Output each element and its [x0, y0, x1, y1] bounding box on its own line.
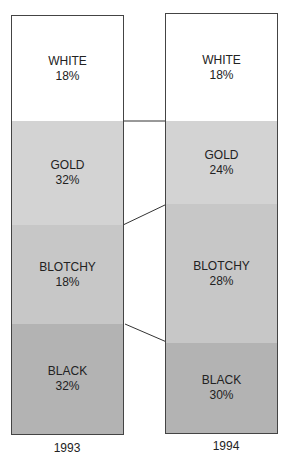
segment-label: WHITE	[48, 54, 87, 69]
segment-value: 18%	[55, 275, 79, 290]
segment-value: 18%	[209, 68, 233, 83]
segment-black-1993: BLACK 32%	[11, 324, 124, 435]
segment-blotchy-1993: BLOTCHY 18%	[11, 225, 124, 325]
segment-value: 30%	[209, 388, 233, 403]
segment-value: 32%	[55, 173, 79, 188]
x-label-1993: 1993	[37, 441, 97, 455]
x-label-1994: 1994	[196, 439, 256, 453]
segment-blotchy-1994: BLOTCHY 28%	[165, 204, 278, 344]
segment-value: 24%	[209, 163, 233, 178]
segment-label: BLACK	[202, 373, 241, 388]
segment-value: 28%	[209, 274, 233, 289]
segment-label: WHITE	[202, 53, 241, 68]
segment-label: GOLD	[50, 158, 84, 173]
segment-black-1994: BLACK 30%	[165, 343, 278, 434]
segment-gold-1994: GOLD 24%	[165, 121, 278, 205]
segment-value: 32%	[55, 379, 79, 394]
bar-1993: WHITE 18% GOLD 32% BLOTCHY 18% BLACK 32%	[11, 15, 124, 435]
segment-label: BLOTCHY	[39, 260, 96, 275]
segment-gold-1993: GOLD 32%	[11, 121, 124, 226]
segment-label: BLACK	[48, 364, 87, 379]
segment-white-1993: WHITE 18%	[11, 15, 124, 122]
segment-label: BLOTCHY	[193, 259, 250, 274]
segment-value: 18%	[55, 69, 79, 84]
segment-label: GOLD	[204, 148, 238, 163]
segment-white-1994: WHITE 18%	[165, 13, 278, 122]
bar-1994: WHITE 18% GOLD 24% BLOTCHY 28% BLACK 30%	[165, 13, 278, 434]
